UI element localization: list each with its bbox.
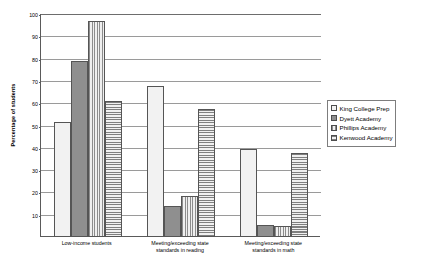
y-tick-label-100: 100 bbox=[29, 12, 38, 18]
legend-label-1: King College Prep bbox=[340, 105, 390, 112]
legend-swatch-icon-1 bbox=[331, 105, 337, 111]
legend-item-1[interactable]: King College Prep bbox=[331, 104, 392, 114]
legend-label-3: Phillips Academy bbox=[340, 124, 387, 131]
bar-3-2 bbox=[257, 225, 274, 237]
legend-swatch-icon-4 bbox=[331, 135, 337, 141]
y-tick-label-90: 90 bbox=[32, 34, 38, 40]
y-tick-label-80: 80 bbox=[32, 57, 38, 63]
legend-swatch-icon-3 bbox=[331, 125, 337, 131]
legend-item-2[interactable]: Dyett Academy bbox=[331, 113, 392, 123]
bar-1-2 bbox=[71, 61, 88, 237]
bar-group-1 bbox=[41, 14, 134, 237]
bar-1-1 bbox=[54, 122, 71, 237]
bar-2-2 bbox=[164, 206, 181, 237]
y-tick-label-70: 70 bbox=[32, 79, 38, 85]
x-category-line: standards in reading bbox=[135, 247, 224, 254]
chart-legend: King College PrepDyett AcademyPhillips A… bbox=[327, 100, 396, 147]
x-category-label-3: Meeting/exceeding statestandards in math bbox=[227, 240, 320, 254]
x-category-line: Low-income students bbox=[42, 240, 131, 247]
x-axis-category-labels: Low-income studentsMeeting/exceeding sta… bbox=[40, 240, 320, 254]
bar-1-3 bbox=[88, 21, 105, 237]
x-category-label-1: Low-income students bbox=[40, 240, 133, 254]
x-category-line: standards in math bbox=[229, 247, 318, 254]
plot-area: 1009080706050403020100 bbox=[40, 14, 320, 237]
y-tick-label-20: 20 bbox=[32, 190, 38, 196]
bar-2-1 bbox=[147, 86, 164, 237]
x-category-line: Meeting/exceeding state bbox=[229, 240, 318, 247]
bar-group-3 bbox=[228, 14, 321, 237]
legend-item-4[interactable]: Kenwood Academy bbox=[331, 133, 392, 143]
y-tick-label-30: 30 bbox=[32, 168, 38, 174]
legend-item-3[interactable]: Phillips Academy bbox=[331, 123, 392, 133]
bar-1-4 bbox=[105, 101, 122, 237]
bar-2-3 bbox=[181, 196, 198, 237]
y-tick-label-60: 60 bbox=[32, 101, 38, 107]
y-tick-label-40: 40 bbox=[32, 146, 38, 152]
x-category-line: Meeting/exceeding state bbox=[135, 240, 224, 247]
legend-label-4: Kenwood Academy bbox=[340, 134, 393, 141]
bar-3-3 bbox=[274, 226, 291, 237]
y-tick-label-10: 10 bbox=[32, 213, 38, 219]
legend-label-2: Dyett Academy bbox=[340, 115, 382, 122]
x-category-label-2: Meeting/exceeding statestandards in read… bbox=[133, 240, 226, 254]
legend-swatch-icon-2 bbox=[331, 115, 337, 121]
bar-3-1 bbox=[240, 149, 257, 237]
y-tick-label-50: 50 bbox=[32, 124, 38, 130]
bar-chart: Percentage of students 10090807060504030… bbox=[0, 0, 427, 275]
bar-2-4 bbox=[198, 109, 215, 237]
bar-groups bbox=[41, 14, 321, 237]
bar-group-2 bbox=[134, 14, 227, 237]
bar-3-4 bbox=[291, 153, 308, 237]
y-axis-title: Percentage of students bbox=[10, 50, 16, 180]
